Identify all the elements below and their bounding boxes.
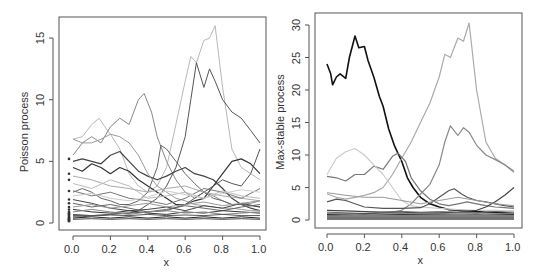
point-marker <box>68 208 71 211</box>
y-tick-label: 0 <box>34 220 46 226</box>
poisson-process-panel: Poisson process x 0.00.20.40.60.81.00510… <box>0 0 274 276</box>
point-marker <box>68 179 71 182</box>
y-tick-label: 0 <box>290 217 302 223</box>
series-line-p9 <box>73 176 260 201</box>
point-marker <box>68 172 71 175</box>
x-tick-label: 0.8 <box>214 243 229 255</box>
point-marker <box>68 158 71 161</box>
x-tick-label: 0.6 <box>430 241 445 253</box>
y-tick-label: 25 <box>290 51 302 63</box>
series-line-p15 <box>73 209 260 214</box>
x-tick-label: 0.2 <box>101 243 116 255</box>
y-tick-label: 10 <box>290 149 302 161</box>
series-line-m2 <box>327 23 514 199</box>
x-tick-label: 0.8 <box>468 241 483 253</box>
point-marker <box>68 198 71 201</box>
point-marker <box>68 220 71 223</box>
y-tick-label: 15 <box>290 116 302 128</box>
series-line-p16 <box>73 217 260 218</box>
point-marker <box>68 190 71 193</box>
y-tick-label: 15 <box>34 32 46 44</box>
x-tick-label: 0.0 <box>318 241 333 253</box>
x-tick-label: 1.0 <box>251 243 266 255</box>
series-line-m1 <box>327 36 514 214</box>
plot-frame <box>59 17 266 230</box>
max-stable-process-plot <box>274 0 548 276</box>
y-tick-label: 5 <box>34 158 46 164</box>
y-tick-label: 30 <box>290 19 302 31</box>
x-tick-label: 0.0 <box>64 243 79 255</box>
series-line-p7 <box>73 134 260 211</box>
point-marker <box>68 202 71 205</box>
x-tick-label: 0.6 <box>176 243 191 255</box>
y-axis-label: Poisson process <box>17 72 31 192</box>
point-marker <box>68 206 71 209</box>
x-tick-label: 0.4 <box>393 241 408 253</box>
y-tick-label: 10 <box>34 93 46 105</box>
max-stable-process-panel: Max-stable process x 0.00.20.40.60.81.00… <box>274 0 548 276</box>
series-line-p17 <box>73 219 260 220</box>
x-axis-label: x <box>418 254 424 266</box>
y-tick-label: 20 <box>290 84 302 96</box>
series-line-m3 <box>327 153 514 208</box>
x-tick-label: 1.0 <box>505 241 520 253</box>
y-tick-label: 5 <box>290 184 302 190</box>
y-axis-label: Max-stable process <box>273 62 287 182</box>
x-axis-label: x <box>164 256 170 268</box>
x-tick-label: 0.2 <box>355 241 370 253</box>
x-tick-label: 0.4 <box>139 243 154 255</box>
